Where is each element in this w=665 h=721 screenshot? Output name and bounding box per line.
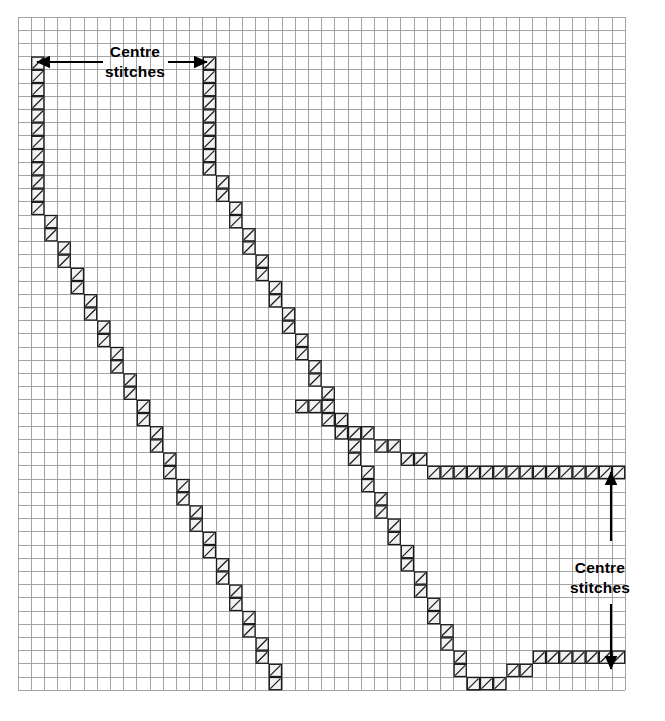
annotation-layer: Centre stitches Centre stitches xyxy=(0,0,665,721)
centre-stitches-right-line1: Centre xyxy=(575,559,625,576)
centre-stitches-top-label: Centre stitches xyxy=(105,43,165,80)
centre-stitches-top-line1: Centre xyxy=(110,43,160,60)
centre-stitches-top-line2: stitches xyxy=(105,63,165,80)
pattern-chart: Centre stitches Centre stitches xyxy=(0,0,665,721)
centre-stitches-right-line2: stitches xyxy=(570,579,630,596)
centre-stitches-right-label: Centre stitches xyxy=(570,559,630,596)
